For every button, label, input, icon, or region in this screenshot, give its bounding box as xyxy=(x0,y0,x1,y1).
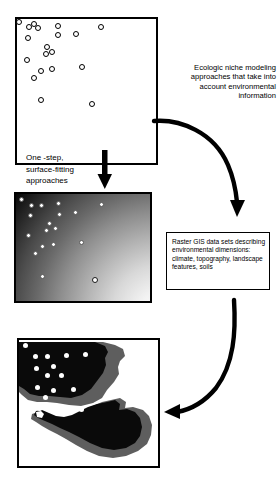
occurrence-point xyxy=(16,19,22,25)
surface-point xyxy=(28,213,33,218)
surface-point xyxy=(79,240,84,245)
down-arrow-icon xyxy=(96,150,114,190)
distribution-point xyxy=(45,373,50,378)
distribution-point xyxy=(71,387,76,392)
curved-arrow-to-distribution-icon xyxy=(150,292,250,422)
surface-point xyxy=(40,274,45,279)
distribution-point xyxy=(83,352,88,357)
occurrence-point xyxy=(55,23,61,29)
distribution-point xyxy=(45,354,50,359)
occurrence-point xyxy=(89,101,95,107)
surface-point xyxy=(33,251,38,256)
surface-point xyxy=(73,210,78,215)
surface-point xyxy=(99,202,104,207)
occurrence-point xyxy=(43,51,49,57)
distribution-point xyxy=(33,354,38,359)
occurrence-point xyxy=(49,66,55,72)
distribution-point xyxy=(43,395,48,400)
surface-point xyxy=(57,212,62,217)
raster-gis-label: Raster GIS data sets describing environm… xyxy=(172,238,268,271)
environmental-surface-panel xyxy=(14,192,152,303)
surface-point xyxy=(53,226,58,231)
predicted-distribution-panel xyxy=(17,338,160,468)
occurrence-scatter-panel xyxy=(15,17,158,165)
distribution-map-shapes xyxy=(19,340,158,466)
distribution-point xyxy=(59,373,64,378)
distribution-point xyxy=(51,364,56,369)
distribution-point xyxy=(51,388,56,393)
surface-point xyxy=(29,203,34,208)
occurrence-point xyxy=(24,57,30,63)
distribution-point xyxy=(64,353,69,358)
occurrence-point xyxy=(73,31,79,37)
surface-point xyxy=(39,203,44,208)
surface-point xyxy=(44,228,49,233)
surface-point xyxy=(92,277,98,283)
surface-point xyxy=(40,244,45,249)
distribution-point xyxy=(37,406,42,411)
occurrence-point xyxy=(55,32,61,38)
occurrence-point xyxy=(31,21,37,27)
environment-gradient-fill xyxy=(16,194,150,301)
curved-arrow-to-raster-icon xyxy=(152,110,252,225)
distribution-point xyxy=(79,407,84,412)
surface-point xyxy=(47,221,52,226)
raster-gis-textbox: Raster GIS data sets describing environm… xyxy=(166,232,270,290)
occurrence-point xyxy=(25,35,31,41)
surface-point xyxy=(51,242,56,247)
occurrence-point xyxy=(49,49,55,55)
diagram-canvas: One -step, surface-fitting approaches xyxy=(0,0,279,499)
one-step-approach-label: One -step, surface-fitting approaches xyxy=(26,152,94,187)
distribution-point xyxy=(35,385,40,390)
occurrence-point xyxy=(38,68,44,74)
niche-modeling-label: Ecologic niche modeling approaches that … xyxy=(176,63,276,101)
surface-point xyxy=(19,197,24,202)
occurrence-point xyxy=(38,97,44,103)
occurrence-point xyxy=(31,75,37,81)
occurrence-point xyxy=(79,64,85,70)
distribution-point xyxy=(23,343,28,348)
occurrence-point xyxy=(98,24,104,30)
distribution-point xyxy=(34,366,39,371)
surface-point xyxy=(26,233,31,238)
surface-point xyxy=(56,201,61,206)
